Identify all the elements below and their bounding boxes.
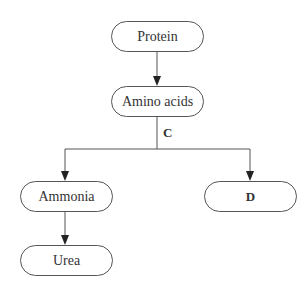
node-d: D: [204, 181, 297, 212]
node-urea: Urea: [20, 245, 113, 276]
arrowhead-icon: [61, 235, 69, 245]
node-protein: Protein: [111, 21, 204, 52]
flowchart: Protein Amino acids C Ammonia D Urea: [0, 0, 306, 293]
arrowhead-icon: [61, 171, 69, 181]
node-ammonia: Ammonia: [20, 181, 113, 212]
arrowhead-icon: [153, 76, 161, 86]
arrowhead-icon: [246, 171, 254, 181]
node-amino-acids: Amino acids: [111, 86, 204, 117]
edge-label-c: C: [163, 125, 172, 141]
